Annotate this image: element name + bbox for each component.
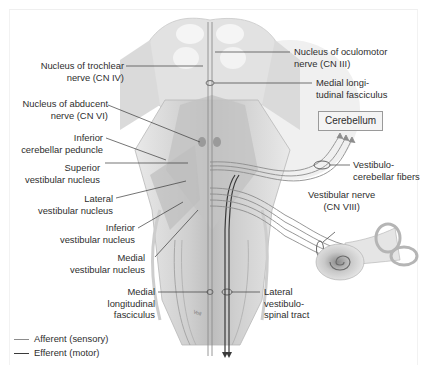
label-line: Nucleus of trochlear [41,60,124,72]
label-line: Nucleus of oculomotor [294,46,387,58]
label-line: vestibular nucleus [25,174,100,186]
label-line: Vestibular nerve [308,189,375,201]
label-medial-vestibular-nucleus: Medial vestibular nucleus [70,252,145,275]
label-abducent-nucleus: Nucleus of abducent nerve (CN VI) [23,98,108,121]
label-line: Medial [70,252,145,264]
label-line: vestibular nucleus [70,264,145,276]
inner-ear [316,224,417,280]
efferent-line-swatch [14,353,29,354]
label-line: longitudinal [108,298,155,310]
label-inferior-vestibular-nucleus: Inferior vestibular nucleus [60,222,135,245]
label-line: Inferior [21,132,103,144]
label-line: Medial longi- [316,77,387,89]
label-line: Lateral [264,286,309,298]
label-line: Medial [108,286,155,298]
label-line: cerebellar fibers [353,171,420,183]
label-trochlear-nucleus: Nucleus of trochlear nerve (CN IV) [41,60,124,83]
label-line: Vestibulo- [353,159,420,171]
legend-label: Efferent (motor) [34,347,99,358]
label-line: spinal tract [264,309,309,321]
label-vestibulocerebellar-fibers: Vestibulo- cerebellar fibers [353,159,420,182]
label-line: nerve (CN VI) [23,110,108,122]
label-line: vestibulo- [264,298,309,310]
label-line: Superior [25,162,100,174]
legend-efferent: Efferent (motor) [14,347,99,358]
label-line: vestibular nucleus [60,234,135,246]
label-mlf-upper: Medial longi- tudinal fasciculus [316,77,387,100]
label-mlf-lower: Medial longitudinal fasciculus [108,286,155,321]
label-vestibular-nerve: Vestibular nerve (CN VIII) [308,189,375,212]
label-inferior-cerebellar-peduncle: Inferior cerebellar peduncle [21,132,103,155]
label-line: nerve (CN IV) [41,72,124,84]
afferent-line-swatch [14,339,29,340]
label-line: vestibular nucleus [38,205,113,217]
legend-afferent: Afferent (sensory) [14,333,108,344]
legend-label: Afferent (sensory) [34,333,108,344]
label-line: Inferior [60,222,135,234]
label-line: nerve (CN III) [294,58,387,70]
label-oculomotor-nucleus: Nucleus of oculomotor nerve (CN III) [294,46,387,69]
label-lateral-vestibular-nucleus: Lateral vestibular nucleus [38,193,113,216]
label-lateral-vestibulospinal-tract: Lateral vestibulo- spinal tract [264,286,309,321]
label-line: Lateral [38,193,113,205]
label-superior-vestibular-nucleus: Superior vestibular nucleus [25,162,100,185]
label-line: fasciculus [108,309,155,321]
label-line: (CN VIII) [308,201,375,213]
label-line: cerebellar peduncle [21,144,103,156]
cerebellum-box: Cerebellum [318,111,383,131]
label-line: tudinal fasciculus [316,89,387,101]
label-line: Nucleus of abducent [23,98,108,110]
